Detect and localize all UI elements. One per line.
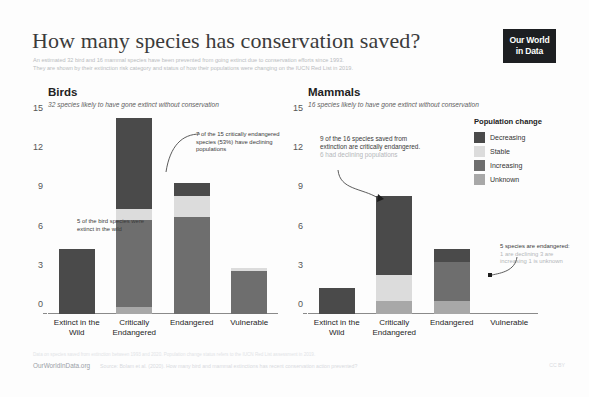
x-axis-label-extinct-in-the-wild: Extinct in the Wild — [48, 318, 106, 337]
legend-swatch-decreasing — [474, 132, 485, 143]
bar-segment-decreasing[interactable] — [174, 183, 210, 196]
annotation-mammals-critical-muted: 6 had declining populations — [320, 151, 397, 158]
x-axis-label-critically-endangered: Critically Endangered — [366, 318, 424, 337]
y-axis-tick-label: 3 — [38, 260, 43, 270]
logo-line-2: in Data — [516, 46, 543, 57]
legend-label-stable: Stable — [490, 148, 510, 155]
footer-note: Data on species saved from extinction be… — [33, 352, 553, 357]
bar-segment-stable[interactable] — [174, 196, 210, 217]
footer-licence[interactable]: CC BY — [549, 362, 565, 368]
legend-title: Population change — [474, 117, 580, 126]
page-subtitle: An estimated 32 bird and 16 mammal speci… — [33, 56, 503, 73]
legend-item-decreasing[interactable]: Decreasing — [474, 130, 580, 144]
y-axis-tick-label: 3 — [298, 260, 303, 270]
x-axis-label-vulnerable: Vulnerable — [481, 318, 539, 328]
y-axis-tick-label: 0 — [298, 299, 303, 309]
annotation-mammals-critically-endangered: 9 of the 16 species saved from extinctio… — [320, 135, 422, 160]
y-axis-tick-mark — [303, 313, 307, 314]
subtitle-line-1: An estimated 32 bird and 16 mammal speci… — [33, 56, 503, 64]
legend-item-increasing[interactable]: Increasing — [474, 158, 580, 172]
footer-owid-link[interactable]: OurWorldInData.org — [33, 362, 90, 369]
footer: OurWorldInData.org Source: Bolam et al. … — [33, 362, 553, 369]
legend-swatch-increasing — [474, 160, 485, 171]
bar-segment-unknown[interactable] — [376, 301, 412, 314]
y-axis-tick-label: 0 — [38, 299, 43, 309]
legend-item-unknown[interactable]: Unknown — [474, 172, 580, 186]
bar-segment-increasing[interactable] — [231, 271, 267, 314]
y-axis-tick-label: 12 — [293, 142, 303, 152]
annotation-mammals-endangered-main: 5 species are endangered: — [500, 243, 570, 249]
y-axis-tick-label: 6 — [298, 221, 303, 231]
legend-item-stable[interactable]: Stable — [474, 144, 580, 158]
x-axis-label-vulnerable: Vulnerable — [221, 318, 279, 328]
bar-segment-unknown[interactable] — [116, 307, 152, 314]
annotation-mammals-endangered: 5 species are endangered: 1 are declinin… — [500, 243, 574, 266]
bar-endangered[interactable] — [434, 249, 470, 314]
y-axis-tick-mark — [43, 313, 47, 314]
our-world-in-data-logo: Our World in Data — [503, 29, 556, 63]
page-title: How many species has conservation saved? — [32, 28, 420, 54]
bar-segment-decreasing[interactable] — [376, 196, 412, 274]
panel-subtitle-mammals: 16 species likely to have gone extinct w… — [308, 101, 479, 108]
annotation-mammals-endangered-muted: 1 are declining 3 are increasing 1 is un… — [500, 251, 563, 265]
panel-subtitle-birds: 32 species likely to have gone extinct w… — [48, 101, 219, 108]
legend: Population change Decreasing Stable Incr… — [474, 117, 580, 186]
bar-segment-increasing[interactable] — [434, 262, 470, 301]
bar-extinct-in-the-wild[interactable] — [319, 288, 355, 314]
bar-segment-decreasing[interactable] — [434, 249, 470, 262]
y-axis-tick-label: 12 — [33, 142, 43, 152]
annotation-mammals-critical-main: 9 of the 16 species saved from extinctio… — [320, 135, 420, 150]
panel-title-mammals: Mammals — [308, 86, 360, 98]
bar-segment-decreasing[interactable] — [116, 118, 152, 209]
x-axis-label-extinct-in-the-wild: Extinct in the Wild — [308, 318, 366, 337]
panel-title-birds: Birds — [48, 86, 77, 98]
bar-vulnerable[interactable] — [231, 268, 267, 314]
bar-segment-decreasing[interactable] — [319, 288, 355, 314]
bar-critically-endangered[interactable] — [376, 196, 412, 314]
x-axis-label-endangered: Endangered — [163, 318, 221, 328]
annotation-birds-critically-endangered: 7 of the 15 critically endangered specie… — [196, 131, 281, 154]
y-axis-tick-label: 15 — [33, 103, 43, 113]
legend-swatch-unknown — [474, 174, 485, 185]
x-axis-label-critically-endangered: Critically Endangered — [106, 318, 164, 337]
annotation-birds-extinct-in-wild: 5 of the bird species were extinct in th… — [77, 218, 149, 233]
bar-segment-unknown[interactable] — [434, 301, 470, 314]
bar-critically-endangered[interactable] — [116, 118, 152, 314]
chart-page: How many species has conservation saved?… — [0, 0, 589, 397]
logo-line-1: Our World — [509, 35, 549, 46]
footer-source: Source: Bolam et al. (2020). How many bi… — [100, 363, 357, 369]
legend-label-increasing: Increasing — [490, 162, 522, 169]
bar-segment-increasing[interactable] — [174, 217, 210, 314]
subtitle-line-2: They are shown by their extinction risk … — [33, 64, 503, 72]
legend-label-decreasing: Decreasing — [490, 134, 525, 141]
legend-swatch-stable — [474, 146, 485, 157]
bar-extinct-in-the-wild[interactable] — [59, 249, 95, 314]
y-axis-tick-label: 9 — [38, 181, 43, 191]
bar-segment-stable[interactable] — [376, 275, 412, 301]
y-axis-tick-label: 15 — [293, 103, 303, 113]
y-axis-tick-label: 6 — [38, 221, 43, 231]
legend-label-unknown: Unknown — [490, 176, 519, 183]
bar-endangered[interactable] — [174, 183, 210, 314]
bar-segment-decreasing[interactable] — [59, 249, 95, 314]
y-axis-tick-label: 9 — [298, 181, 303, 191]
x-axis-label-endangered: Endangered — [423, 318, 481, 328]
